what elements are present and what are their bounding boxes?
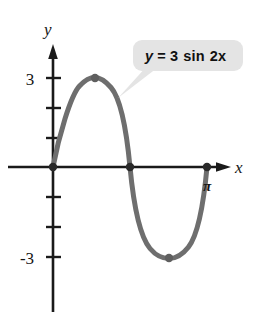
minimum-point-marker bbox=[165, 254, 173, 262]
callout-sin: sin bbox=[183, 48, 205, 64]
callout-equals: = bbox=[157, 48, 166, 64]
y-tick-label-neg3: -3 bbox=[20, 249, 34, 268]
x-axis-label: x bbox=[234, 158, 243, 177]
axes-group bbox=[8, 44, 231, 312]
pi-zero-point-marker bbox=[203, 163, 211, 171]
maximum-point-marker bbox=[91, 74, 99, 82]
callout-coefficient: 3 bbox=[170, 48, 178, 64]
y-axis-label: y bbox=[42, 20, 52, 39]
y-tick-label-3: 3 bbox=[26, 70, 35, 89]
callout-argument: 2x bbox=[210, 48, 227, 64]
figure-root: y=3sin2x y x 3 -3 π bbox=[0, 0, 253, 320]
equation-callout: y=3sin2x bbox=[118, 40, 243, 98]
x-axis-arrowhead bbox=[216, 162, 231, 172]
callout-var-y: y bbox=[144, 48, 154, 64]
mid-zero-point-marker bbox=[126, 163, 134, 171]
callout-equation-text: y=3sin2x bbox=[144, 48, 226, 64]
x-tick-label-pi: π bbox=[203, 178, 212, 194]
graph-canvas: y=3sin2x y x 3 -3 π bbox=[0, 0, 253, 320]
y-axis-arrowhead bbox=[48, 44, 58, 59]
origin-point-marker bbox=[49, 163, 57, 171]
